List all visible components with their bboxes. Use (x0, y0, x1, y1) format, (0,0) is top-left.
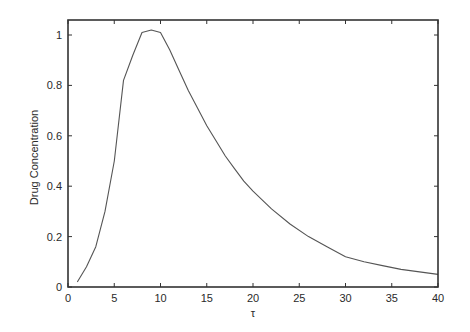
y-tick-label: 0.2 (47, 231, 62, 243)
x-tick-label: 15 (201, 292, 213, 304)
x-tick-label: 25 (293, 292, 305, 304)
x-tick-label: 0 (65, 292, 71, 304)
y-axis-tick-labels: 00.20.40.60.81 (47, 29, 62, 293)
axes-frame (68, 20, 438, 287)
y-tick-label: 0.8 (47, 79, 62, 91)
y-axis-label: Drug Concentration (28, 110, 40, 205)
y-tick-label: 0.4 (47, 180, 62, 192)
line-chart: 0510152025303540 00.20.40.60.81 τ Drug C… (0, 0, 470, 332)
x-tick-label: 30 (339, 292, 351, 304)
x-tick-label: 5 (111, 292, 117, 304)
x-tick-label: 40 (432, 292, 444, 304)
x-tick-label: 20 (247, 292, 259, 304)
series-line (77, 30, 438, 282)
x-axis-label: τ (251, 307, 256, 319)
y-tick-label: 1 (56, 29, 62, 41)
axis-ticks (68, 20, 438, 287)
x-tick-label: 35 (386, 292, 398, 304)
x-tick-label: 10 (154, 292, 166, 304)
y-tick-label: 0.6 (47, 130, 62, 142)
plot-area (77, 30, 438, 282)
x-axis-tick-labels: 0510152025303540 (65, 292, 444, 304)
y-tick-label: 0 (56, 281, 62, 293)
